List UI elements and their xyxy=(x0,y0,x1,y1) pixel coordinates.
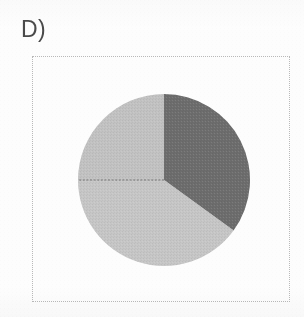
pie-chart-svg xyxy=(77,93,251,267)
pie-chart xyxy=(77,93,251,267)
figure-panel: D) xyxy=(0,0,304,317)
page-title: D) xyxy=(21,18,46,41)
pie-grain-texture xyxy=(78,94,250,266)
